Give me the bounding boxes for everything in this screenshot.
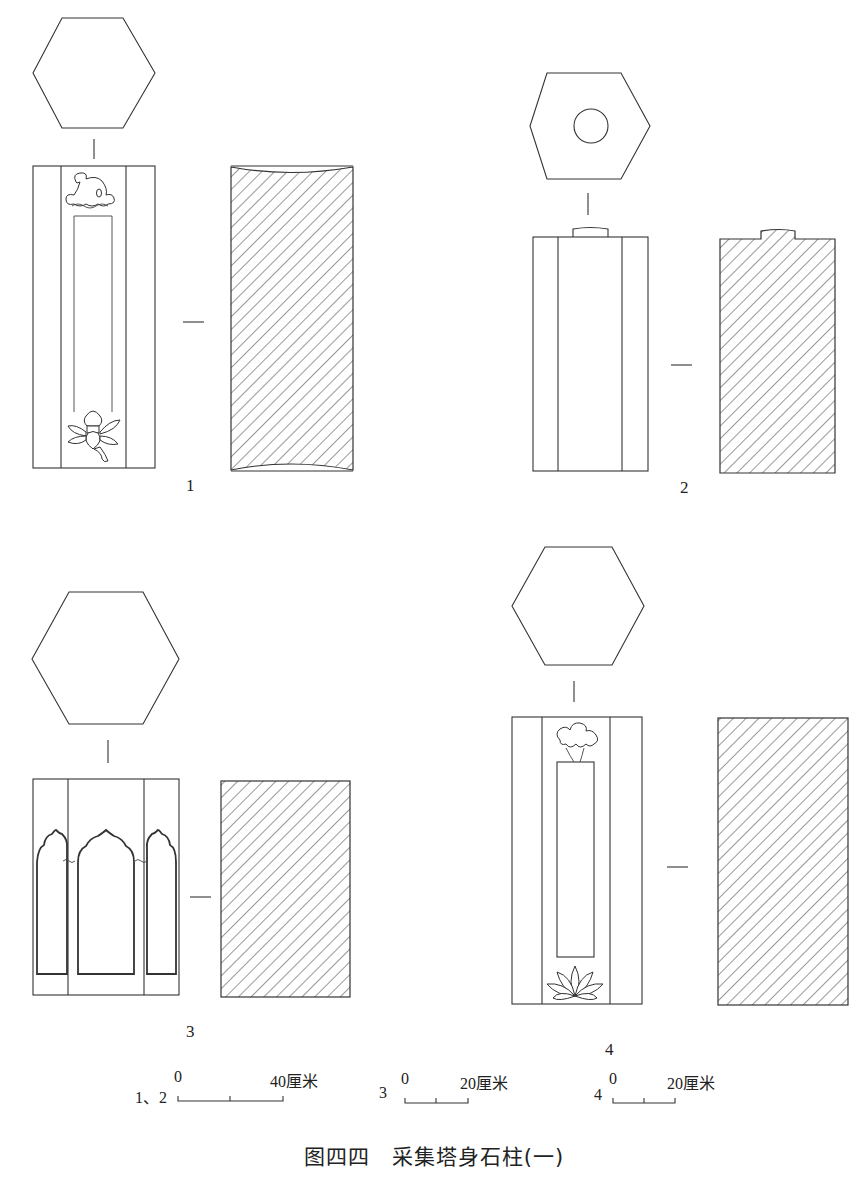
object-1-top-view-hexagon <box>33 18 155 128</box>
inscription-panel <box>557 762 594 957</box>
object-1-elevation <box>33 166 155 468</box>
object-2 <box>530 73 835 473</box>
scale-bar-3-applies: 3 <box>379 1084 387 1102</box>
scale-bar-4-start: 0 <box>609 1070 617 1088</box>
cloud-ornament <box>557 723 598 762</box>
object-4-section <box>718 718 848 1005</box>
lotus-ornament <box>547 966 603 1000</box>
scale-bar-4 <box>613 1098 675 1103</box>
object-3-elevation <box>33 779 179 995</box>
figure-drawing <box>0 0 868 1188</box>
scale-bar-1-2-start: 0 <box>174 1068 182 1086</box>
niche-right <box>147 830 176 974</box>
object-label-4: 4 <box>605 1040 614 1060</box>
object-1 <box>33 18 353 471</box>
object-1-section <box>231 166 353 471</box>
object-label-3: 3 <box>186 1022 195 1042</box>
object-2-top-view-hexagon <box>530 73 650 179</box>
niche-center <box>78 830 134 974</box>
scale-bar-1-2 <box>178 1096 283 1101</box>
cloud-ornament <box>66 173 114 208</box>
niche-left <box>37 830 67 974</box>
scale-bar-4-end: 20厘米 <box>667 1070 715 1094</box>
object-2-section <box>720 230 835 474</box>
object-2-elevation <box>533 228 648 472</box>
object-label-2: 2 <box>680 478 689 498</box>
object-3-top-view-hexagon <box>32 592 179 724</box>
scale-bar-1-2-end: 40厘米 <box>270 1068 318 1092</box>
scale-bar-4-applies: 4 <box>594 1086 602 1104</box>
object-3-section <box>221 781 350 997</box>
object-2-socket-circle <box>574 109 608 143</box>
lotus-jewel-ornament <box>68 411 120 462</box>
object-3 <box>32 592 350 997</box>
scale-bar-1-2-applies: 1、2 <box>135 1084 167 1108</box>
scale-bar-3-end: 20厘米 <box>460 1070 508 1094</box>
object-4-top-view-hexagon <box>512 547 644 665</box>
object-4 <box>512 547 848 1005</box>
scale-bar-3-start: 0 <box>401 1070 409 1088</box>
object-4-elevation <box>512 717 642 1004</box>
object-label-1: 1 <box>186 476 195 496</box>
scale-bar-3 <box>405 1098 468 1103</box>
figure-caption: 图四四 采集塔身石柱(一) <box>0 1140 868 1170</box>
